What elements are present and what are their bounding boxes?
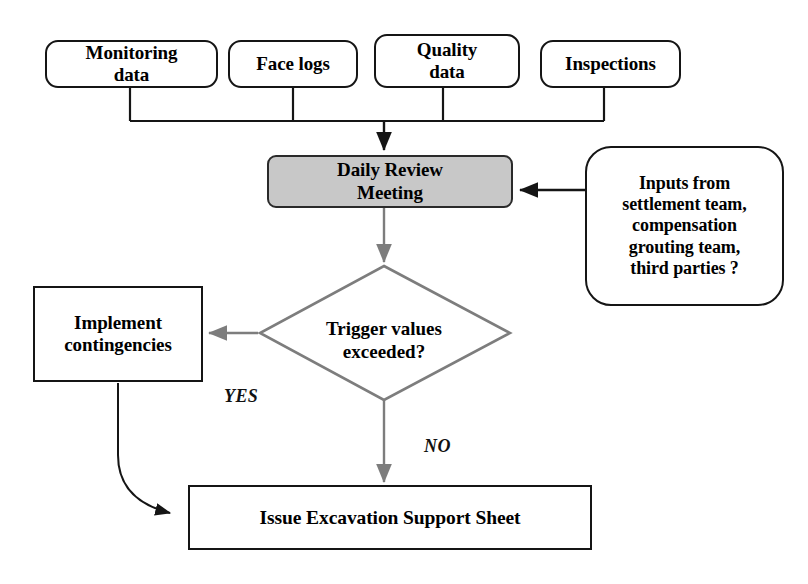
node-quality-data[interactable]: Quality data <box>374 34 520 88</box>
node-daily-review-meeting-label: Daily Review Meeting <box>337 159 443 204</box>
node-implement-contingencies-label: Implement contingencies <box>64 312 171 357</box>
node-external-inputs[interactable]: Inputs from settlement team, compensatio… <box>585 146 784 306</box>
input-bus-connector <box>130 88 604 121</box>
node-inspections-label: Inspections <box>565 53 656 75</box>
node-trigger-values-decision[interactable]: Trigger values exceeded? <box>284 318 484 364</box>
node-face-logs-label: Face logs <box>256 53 330 75</box>
node-external-inputs-label: Inputs from settlement team, compensatio… <box>622 173 746 279</box>
node-implement-contingencies[interactable]: Implement contingencies <box>33 286 203 382</box>
node-monitoring-data-label: Monitoring data <box>86 42 178 87</box>
node-issue-excavation-support-sheet-label: Issue Excavation Support Sheet <box>260 506 521 529</box>
edge-contingencies-to-output <box>118 383 170 513</box>
edge-label-yes: YES <box>224 386 258 407</box>
node-quality-data-label: Quality data <box>417 39 478 84</box>
edge-label-no: NO <box>424 436 451 457</box>
node-trigger-values-decision-label: Trigger values exceeded? <box>326 318 442 362</box>
node-inspections[interactable]: Inspections <box>540 40 681 88</box>
node-issue-excavation-support-sheet[interactable]: Issue Excavation Support Sheet <box>188 485 592 550</box>
node-face-logs[interactable]: Face logs <box>228 40 358 88</box>
node-monitoring-data[interactable]: Monitoring data <box>45 40 218 88</box>
flowchart-canvas: Monitoring data Face logs Quality data I… <box>0 0 808 584</box>
node-daily-review-meeting[interactable]: Daily Review Meeting <box>267 155 513 208</box>
